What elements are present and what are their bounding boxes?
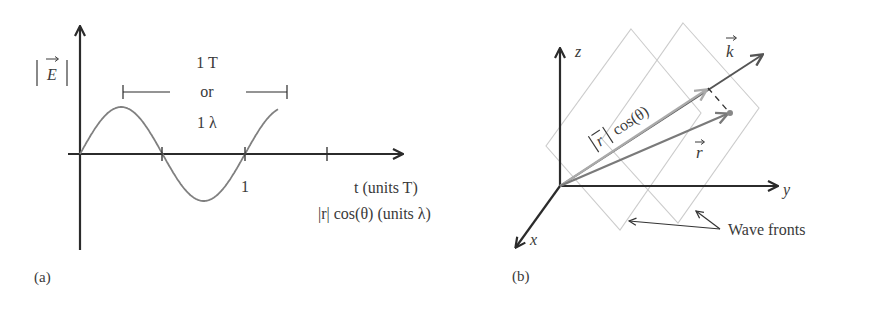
k-label: k [726, 36, 737, 62]
panel-b-label: (b) [512, 268, 530, 285]
projection-label: r cos(θ) [588, 102, 652, 153]
y-axis-label-3d: y [781, 181, 791, 199]
projection-cos-text: cos(θ) [609, 102, 652, 139]
z-axis-label: z [574, 43, 582, 60]
perpendicular-dash [708, 88, 729, 112]
period-label-line3: 1 λ [197, 114, 217, 131]
tick-label-one: 1 [241, 178, 249, 195]
wavefronts-label: Wave fronts [728, 221, 805, 238]
panel-a: 1 T or 1 λ E 1 t (units T) |r| cos(θ) (u… [34, 27, 431, 286]
wavefront-pointer-1 [629, 221, 720, 229]
r-symbol: r [696, 143, 703, 162]
k-symbol: k [726, 42, 734, 61]
r-label: r [695, 140, 705, 163]
panel-a-label: (a) [34, 269, 51, 286]
period-label-line2: or [200, 83, 214, 100]
figure: 1 T or 1 λ E 1 t (units T) |r| cos(θ) (u… [0, 0, 876, 311]
wavefront-pointer-2 [696, 211, 720, 229]
panel-b: z y x k r r cos(θ) [512, 23, 805, 285]
y-axis-label: E [37, 57, 67, 87]
x-axis-label-3d: x [529, 231, 537, 248]
r-point [727, 110, 733, 116]
x-axis-label-time: t (units T) [354, 179, 418, 197]
x-axis-3d [516, 186, 560, 247]
x-axis-label-distance: |r| cos(θ) (units λ) [318, 205, 431, 223]
period-label-line1: 1 T [196, 54, 218, 71]
e-field-symbol: E [46, 66, 57, 83]
